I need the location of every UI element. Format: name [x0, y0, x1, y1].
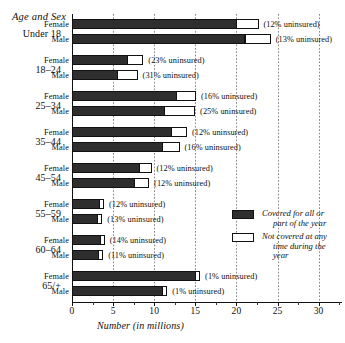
bar-annotation: (12% uninsured) [192, 128, 248, 137]
legend-covered-line2: part of the year [262, 219, 342, 229]
legend-label-uncovered: Not covered at any time during the year [262, 232, 342, 261]
legend-item-uncovered: Not covered at any time during the year [232, 232, 342, 261]
bar-annotation: (25% uninsured) [200, 107, 256, 116]
bar-annotation: (1% uninsured) [205, 272, 257, 281]
bar-segment-covered [72, 19, 237, 29]
age-group-label: 65/+ [0, 280, 61, 291]
bar-annotation: (31% uninsured) [143, 71, 199, 80]
bar-segment-covered [72, 106, 165, 116]
bar-segment-uncovered [245, 34, 271, 44]
legend-covered-line1: Covered for all or [262, 208, 324, 218]
age-group-label: 25–34 [0, 100, 61, 111]
tick-label-10: 10 [143, 306, 165, 316]
tick-label-5: 5 [102, 306, 124, 316]
bar-annotation: (12% uninsured) [263, 20, 319, 29]
tick-minor-7.5 [134, 302, 135, 305]
bar-annotation: (16% uninsured) [185, 143, 241, 152]
bar-segment-covered [72, 127, 172, 137]
tick-label-0: 0 [61, 306, 83, 316]
legend-label-covered: Covered for all or part of the year [262, 209, 342, 228]
legend-item-covered: Covered for all or part of the year [232, 209, 342, 228]
bar-annotation: (16% uninsured) [201, 92, 257, 101]
tick-label-25: 25 [267, 306, 289, 316]
bar-segment-covered [72, 199, 100, 209]
bar-segment-uncovered [162, 142, 179, 152]
bar-segment-uncovered [162, 286, 167, 296]
legend: Covered for all or part of the year Not … [232, 209, 342, 265]
bar-segment-uncovered [100, 235, 105, 245]
legend-swatch-covered-icon [232, 210, 254, 219]
bar-annotation: (12% uninsured) [157, 164, 213, 173]
tick-label-15: 15 [184, 306, 206, 316]
bar-segment-covered [72, 235, 101, 245]
age-group-label: 45–54 [0, 172, 61, 183]
bar-segment-covered [72, 163, 140, 173]
age-group-label: 18–24 [0, 64, 61, 75]
age-group-label: 35–44 [0, 136, 61, 147]
bar-segment-uncovered [171, 127, 187, 137]
tick-minor-12.5 [175, 302, 176, 305]
bar-segment-uncovered [134, 178, 149, 188]
bar-annotation: (23% uninsured) [148, 56, 204, 65]
tick-minor-22.5 [257, 302, 258, 305]
bar-segment-uncovered [195, 271, 200, 281]
legend-swatch-uncovered-icon [232, 233, 254, 242]
legend-uncovered-line2: time during the year [262, 242, 342, 261]
bar-segment-uncovered [127, 55, 143, 65]
bar-annotation: (13% uninsured) [276, 35, 332, 44]
bar-segment-covered [72, 70, 118, 80]
bar-segment-uncovered [236, 19, 258, 29]
bar-segment-uncovered [98, 250, 103, 260]
tick-minor-2.5 [93, 302, 94, 305]
bar-annotation: (13% uninsured) [107, 215, 163, 224]
bar-segment-covered [72, 271, 196, 281]
bar-segment-uncovered [97, 214, 102, 224]
bar-segment-covered [72, 286, 163, 296]
tick-label-30: 30 [308, 306, 330, 316]
bar-segment-covered [72, 214, 98, 224]
bar-segment-uncovered [139, 163, 151, 173]
bar-segment-uncovered [164, 106, 195, 116]
age-group-label: 55–59 [0, 208, 61, 219]
x-axis-title: Number (in millions) [97, 320, 184, 331]
bar-segment-covered [72, 250, 99, 260]
bar-annotation: (1% uninsured) [172, 287, 224, 296]
health-insurance-coverage-chart: Age and Sex 05101520253035 Number (in mi… [0, 0, 345, 343]
age-group-label: Under 18 [0, 28, 61, 39]
tick-label-20: 20 [225, 306, 247, 316]
bar-segment-uncovered [176, 91, 196, 101]
bar-segment-uncovered [99, 199, 104, 209]
bar-annotation: (12% uninsured) [154, 179, 210, 188]
bar-segment-covered [72, 55, 128, 65]
bar-segment-covered [72, 178, 135, 188]
tick-minor-32.5 [339, 302, 340, 305]
bar-segment-uncovered [117, 70, 138, 80]
bar-annotation: (14% uninsured) [110, 236, 166, 245]
age-group-label: 60–64 [0, 244, 61, 255]
bar-annotation: (11% uninsured) [108, 251, 164, 260]
bar-segment-covered [72, 34, 245, 44]
legend-uncovered-line1: Not covered at any [262, 231, 327, 241]
tick-minor-17.5 [216, 302, 217, 305]
bar-segment-covered [72, 142, 163, 152]
bar-annotation: (12% uninsured) [109, 200, 165, 209]
tick-minor-27.5 [298, 302, 299, 305]
bar-segment-covered [72, 91, 177, 101]
